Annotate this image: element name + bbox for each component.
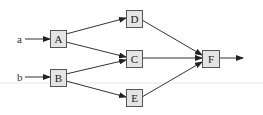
node-E: E [127, 90, 143, 107]
dataflow-diagram: a b A B D C E F [0, 0, 263, 115]
node-B-label: B [55, 72, 62, 84]
edge-E-to-F [142, 62, 202, 97]
edge-B-to-C [66, 60, 126, 74]
node-A-label: A [55, 33, 63, 45]
node-C: C [127, 51, 143, 68]
edge-A-to-D [66, 18, 126, 34]
node-D-label: D [131, 13, 139, 25]
node-D: D [127, 11, 143, 28]
input-label-a: a [17, 33, 22, 45]
input-label-b: b [17, 71, 23, 83]
edge-D-to-F [142, 20, 202, 55]
node-A: A [51, 31, 67, 48]
node-F: F [203, 51, 220, 68]
edge-A-to-C [66, 42, 126, 57]
node-B: B [51, 70, 67, 87]
node-E-label: E [131, 92, 138, 104]
node-C-label: C [131, 53, 138, 65]
node-F-label: F [208, 53, 214, 65]
